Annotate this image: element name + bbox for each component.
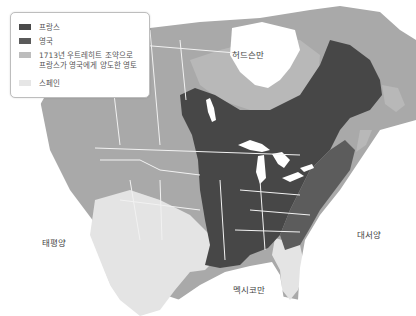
- label-gulf-of-mexico: 멕시코만: [233, 283, 265, 295]
- map-legend: 프랑스 영국 1713년 우트레히트 조약으로 프랑스가 영국에게 양도한 영토…: [10, 12, 150, 98]
- legend-item-britain: 영국: [19, 35, 53, 46]
- spain-swatch: [19, 80, 31, 86]
- legend-item-france: 프랑스: [19, 21, 60, 32]
- france-swatch: [19, 24, 31, 30]
- label-hudson-bay: 허드슨만: [232, 48, 264, 60]
- ceded-swatch: [19, 52, 31, 58]
- label-atlantic-ocean: 대서양: [357, 228, 381, 240]
- legend-label-ceded-line2: 프랑스가 영국에게 양도한 영토: [39, 59, 137, 72]
- britain-swatch: [19, 38, 31, 44]
- legend-label-france: 프랑스: [39, 21, 60, 32]
- legend-item-spain: 스페인: [19, 77, 60, 88]
- legend-label-spain: 스페인: [39, 77, 60, 88]
- label-pacific-ocean: 태평양: [42, 236, 66, 248]
- legend-label-britain: 영국: [39, 35, 53, 46]
